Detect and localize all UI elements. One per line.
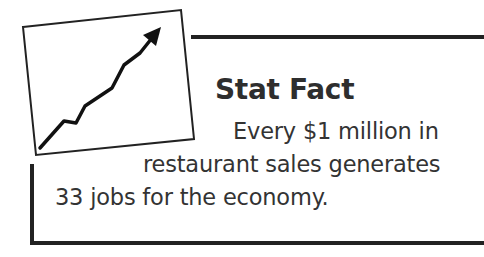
callout-body-line-1: Every $1 million in [233,117,439,145]
callout-title: Stat Fact [215,73,354,107]
callout-body-line-2: restaurant sales generates [143,150,440,178]
callout-body-line-3: 33 jobs for the economy. [55,183,329,211]
rising-trend-chart-icon [23,10,194,155]
